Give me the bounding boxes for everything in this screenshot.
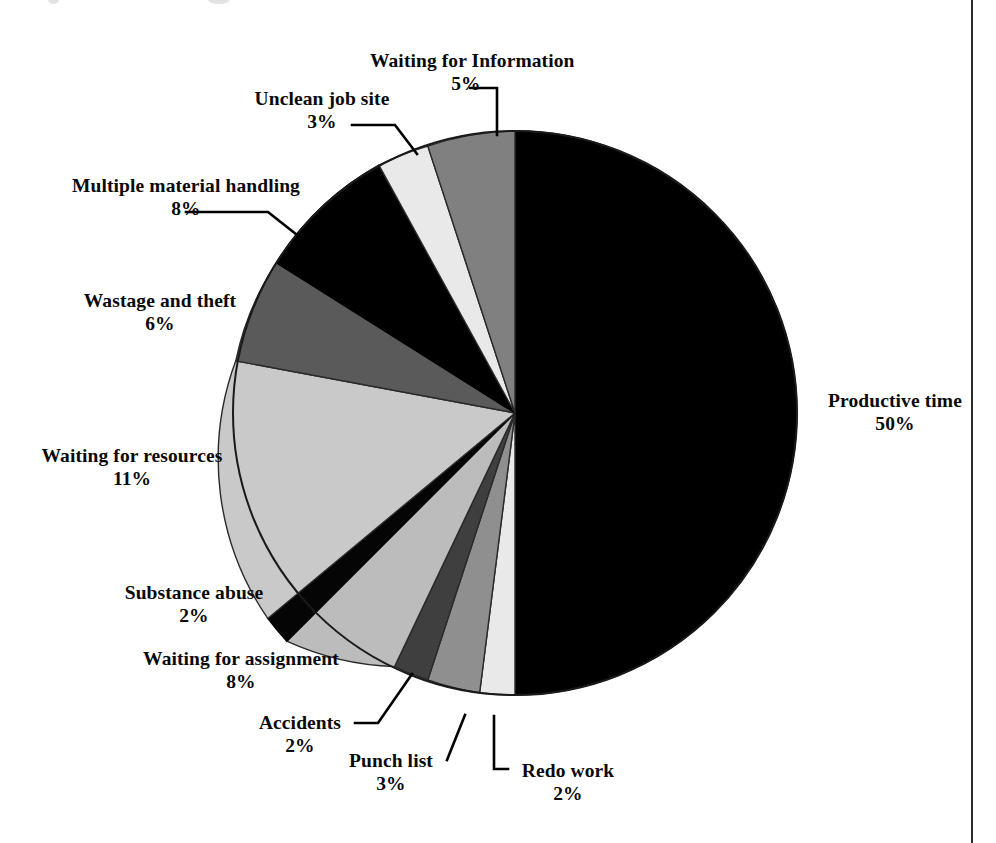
label-wastage-and-theft: Wastage and theft 6% <box>62 290 258 336</box>
label-text: Unclean job site <box>242 88 402 111</box>
pie-slice-productive-time <box>515 131 797 695</box>
label-percent: 3% <box>242 111 402 134</box>
label-text: Punch list <box>336 750 446 773</box>
label-text: Accidents <box>248 712 352 735</box>
label-punch-list: Punch list 3% <box>336 750 446 796</box>
label-text: Waiting for Information <box>370 50 562 73</box>
label-percent: 2% <box>104 605 284 628</box>
label-text: Wastage and theft <box>62 290 258 313</box>
label-productive-time: Productive time 50% <box>812 390 978 436</box>
label-unclean-job-site: Unclean job site 3% <box>242 88 402 134</box>
label-text: Redo work <box>506 760 630 783</box>
label-multiple-material-handling: Multiple material handling 8% <box>62 175 310 221</box>
label-percent: 8% <box>128 671 354 694</box>
label-percent: 2% <box>506 783 630 806</box>
label-text: Productive time <box>812 390 978 413</box>
label-substance-abuse: Substance abuse 2% <box>104 582 284 628</box>
label-text: Substance abuse <box>104 582 284 605</box>
label-text: Waiting for resources <box>20 445 244 468</box>
label-percent: 11% <box>20 468 244 491</box>
label-percent: 8% <box>62 198 310 221</box>
pie-chart-page: Waiting for Information 5% Unclean job s… <box>0 0 996 843</box>
label-redo-work: Redo work 2% <box>506 760 630 806</box>
label-percent: 3% <box>336 773 446 796</box>
label-percent: 6% <box>62 313 258 336</box>
leader-punch-list <box>447 715 465 760</box>
label-text: Waiting for assignment <box>128 648 354 671</box>
label-waiting-for-assignment: Waiting for assignment 8% <box>128 648 354 694</box>
label-text: Multiple material handling <box>62 175 310 198</box>
label-waiting-for-resources: Waiting for resources 11% <box>20 445 244 491</box>
leader-accidents <box>355 674 412 723</box>
label-percent: 50% <box>812 413 978 436</box>
